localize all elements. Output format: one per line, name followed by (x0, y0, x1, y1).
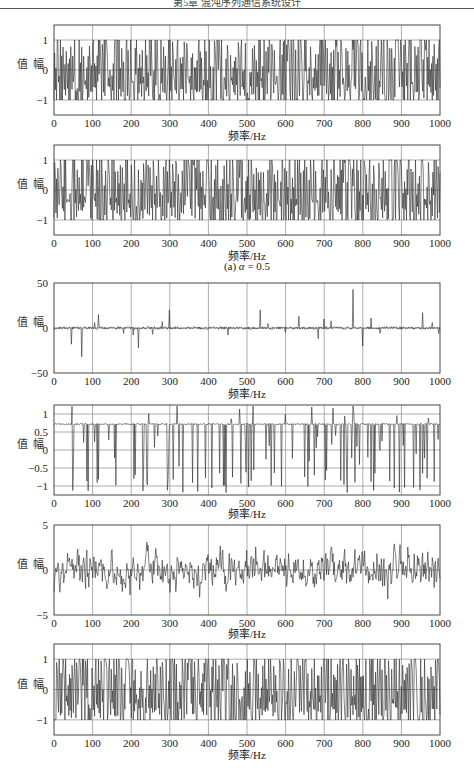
y-tick-label: −1 (36, 714, 48, 726)
plot-6-xlabel: 频率/Hz (0, 746, 474, 762)
plot-6-ylabel: 幅值 (14, 678, 46, 690)
y-tick-label: 1 (43, 653, 49, 665)
plot-6-chart: 01002003004005006007008009001000−101 (0, 0, 474, 775)
